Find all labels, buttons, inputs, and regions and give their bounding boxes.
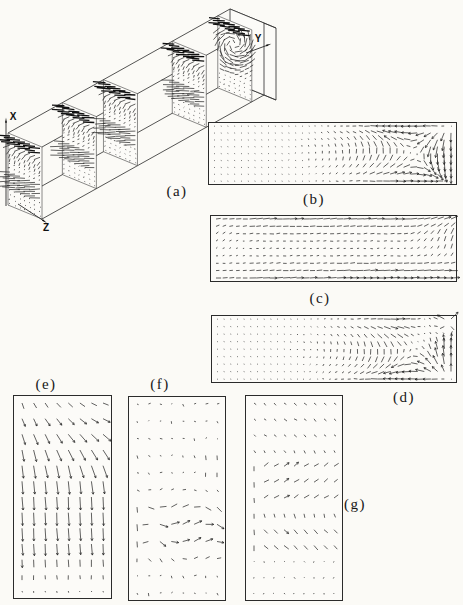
axis-label-y: Y xyxy=(255,33,262,44)
panel-f-vector-field xyxy=(129,397,226,601)
figure-page: (a) (b) (c) (d) (e) (f) (g) X Y Z xyxy=(0,0,463,605)
panel-g-vector-field xyxy=(246,396,343,601)
panel-label-a: (a) xyxy=(166,183,187,200)
panel-label-f: (f) xyxy=(150,376,170,393)
axis-label-x: X xyxy=(10,111,17,122)
panel-c-vector-field xyxy=(211,216,460,282)
panel-label-c: (c) xyxy=(309,290,330,307)
panel-e-vector-field xyxy=(14,396,112,599)
vector-field-figure xyxy=(0,0,463,605)
panel-label-d: (d) xyxy=(393,389,415,406)
axis-label-z: Z xyxy=(43,222,49,233)
panel-label-b: (b) xyxy=(303,191,325,208)
panel-label-e: (e) xyxy=(35,376,56,393)
panel-a-3d-duct xyxy=(0,9,276,223)
panel-b-vector-field xyxy=(209,123,457,185)
panel-label-g: (g) xyxy=(344,496,366,513)
panel-d-vector-field xyxy=(212,312,459,382)
